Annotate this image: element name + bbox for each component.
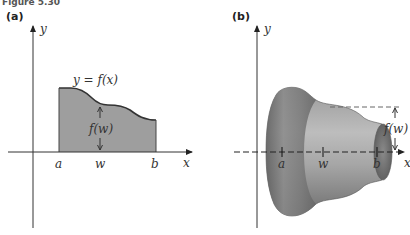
- panel-b-label: (b): [232, 10, 250, 23]
- panel-b: (b) y a w b x f(w): [232, 10, 410, 228]
- height-label-b: f(w): [383, 122, 408, 136]
- curve-label: y = f(x): [72, 73, 118, 87]
- region-under-curve: [59, 88, 156, 152]
- tick-label-a: a: [55, 157, 62, 171]
- tick-label-b: b: [151, 157, 159, 171]
- tick-label-b-b: b: [373, 157, 381, 171]
- tick-label-w-b: w: [318, 157, 329, 171]
- figure-canvas: Figure 5.30 (a) f(w) y = f(x) y x a w b …: [0, 0, 410, 235]
- x-axis-label-b: x: [404, 156, 410, 170]
- panel-a: (a) f(w) y = f(x) y x a w b: [6, 10, 192, 228]
- panel-a-label: (a): [6, 10, 23, 23]
- tick-label-a-b: a: [278, 157, 285, 171]
- y-axis-label-a: y: [39, 22, 47, 36]
- height-label-a: f(w): [88, 122, 113, 136]
- figure-title: Figure 5.30: [2, 0, 60, 7]
- tick-label-w: w: [95, 157, 106, 171]
- y-axis-label-b: y: [263, 22, 271, 36]
- x-axis-label-a: x: [183, 156, 190, 170]
